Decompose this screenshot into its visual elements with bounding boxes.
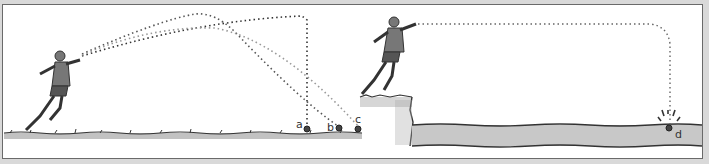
ball-a-icon — [304, 126, 310, 132]
ball-b-icon — [336, 125, 342, 131]
label-a: a — [296, 118, 303, 131]
label-d: d — [675, 128, 682, 141]
trajectory-diagram: a b c d — [0, 0, 709, 164]
label-c: c — [355, 113, 361, 126]
trajectory-b — [82, 14, 338, 126]
splash-icon — [658, 110, 680, 121]
water — [412, 124, 702, 147]
runner-left-icon — [26, 51, 80, 130]
trajectory-a — [82, 16, 307, 128]
trajectory-c — [82, 28, 358, 126]
trajectory-d — [418, 24, 670, 128]
label-b: b — [327, 121, 334, 134]
runner-right-icon — [362, 17, 416, 94]
ball-d-icon — [666, 125, 672, 131]
ball-c-icon — [355, 126, 361, 132]
cliff — [360, 95, 413, 146]
